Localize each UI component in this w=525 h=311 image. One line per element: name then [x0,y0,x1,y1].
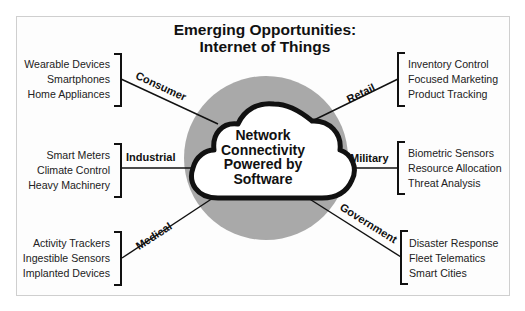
title-line-2: Internet of Things [150,38,380,55]
list-item: Activity Trackers [0,236,110,251]
list-item: Inventory Control [408,57,498,72]
list-item: Wearable Devices [0,57,110,72]
list-item: Resource Allocation [408,161,502,176]
retail-bracket [398,53,405,106]
list-item: Product Tracking [408,87,498,102]
center-concept: Network Connectivity Powered by Software [205,128,321,186]
list-item: Threat Analysis [408,176,502,191]
government-list: Disaster Response Fleet Telematics Smart… [409,236,499,281]
retail-list: Inventory Control Focused Marketing Prod… [408,57,498,102]
list-item: Smartphones [0,72,110,87]
medical-bracket [114,232,121,285]
center-line-3: Powered by [205,157,321,172]
list-item: Climate Control [0,163,110,178]
list-item: Heavy Machinery [0,178,110,193]
center-line-4: Software [205,172,321,187]
category-label-industrial: Industrial [126,151,176,163]
center-line-2: Connectivity [205,143,321,158]
list-item: Fleet Telematics [409,251,499,266]
list-item: Smart Meters [0,148,110,163]
industrial-list: Smart Meters Climate Control Heavy Machi… [0,148,110,193]
list-item: Implanted Devices [0,266,110,281]
list-item: Home Appliances [0,87,110,102]
military-bracket [398,142,405,194]
diagram-title: Emerging Opportunities: Internet of Thin… [150,21,380,55]
government-bracket [401,231,408,284]
list-item: Ingestible Sensors [0,251,110,266]
consumer-list: Wearable Devices Smartphones Home Applia… [0,57,110,102]
military-list: Biometric Sensors Resource Allocation Th… [408,146,502,191]
center-line-1: Network [205,128,321,143]
list-item: Biometric Sensors [408,146,502,161]
list-item: Disaster Response [409,236,499,251]
medical-list: Activity Trackers Ingestible Sensors Imp… [0,236,110,281]
category-label-military: Military [350,152,389,164]
industrial-bracket [114,144,121,197]
title-line-1: Emerging Opportunities: [150,21,380,38]
list-item: Smart Cities [409,266,499,281]
consumer-bracket [114,54,121,106]
list-item: Focused Marketing [408,72,498,87]
